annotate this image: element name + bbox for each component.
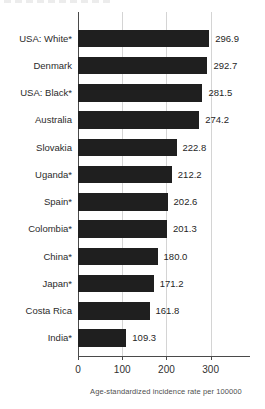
category-label: USA: White*	[0, 30, 72, 48]
category-label: India*	[0, 329, 72, 347]
category-label: China*	[0, 248, 72, 266]
category-label: Slovakia	[0, 139, 72, 157]
category-label: Japan*	[0, 275, 72, 293]
gridline	[211, 12, 212, 356]
x-axis-tick-label: 200	[158, 364, 175, 375]
x-axis-title: Age-standardized incidence rate per 1000…	[78, 387, 254, 396]
category-label: Denmark	[0, 57, 72, 75]
bar	[78, 275, 154, 293]
category-label: Uganda*	[0, 166, 72, 184]
bar	[78, 193, 168, 211]
x-axis-tick-label: 0	[75, 364, 81, 375]
value-label: 161.8	[156, 302, 180, 320]
value-label: 201.3	[173, 220, 197, 238]
category-label: USA: Black*	[0, 84, 72, 102]
category-label: Costa Rica	[0, 302, 72, 320]
bar-chart-screenshot: 0100200300USA: White*296.9Denmark292.7US…	[0, 0, 265, 409]
value-label: 296.9	[215, 30, 239, 48]
cropped-text-remnant	[4, 0, 114, 3]
bar	[78, 220, 167, 238]
value-label: 281.5	[208, 84, 232, 102]
category-label: Australia	[0, 111, 72, 129]
bar	[78, 139, 177, 157]
category-label: Spain*	[0, 193, 72, 211]
x-axis-tick	[166, 357, 167, 360]
value-label: 171.2	[160, 275, 184, 293]
bar	[78, 30, 209, 48]
bar	[78, 57, 207, 75]
x-axis-tick	[78, 357, 79, 360]
value-label: 292.7	[213, 57, 237, 75]
category-label: Colombia*	[0, 220, 72, 238]
value-label: 109.3	[132, 329, 156, 347]
value-label: 202.6	[174, 193, 198, 211]
bar	[78, 302, 150, 320]
bar	[78, 248, 158, 266]
x-axis-tick-label: 300	[202, 364, 219, 375]
x-axis-tick	[122, 357, 123, 360]
x-axis-tick	[211, 357, 212, 360]
value-label: 222.8	[183, 139, 207, 157]
bar	[78, 84, 202, 102]
bar	[78, 166, 172, 184]
x-axis-line	[78, 356, 250, 357]
bar	[78, 329, 126, 347]
value-label: 212.2	[178, 166, 202, 184]
bar	[78, 111, 199, 129]
x-axis-tick-label: 100	[114, 364, 131, 375]
value-label: 180.0	[164, 248, 188, 266]
value-label: 274.2	[205, 111, 229, 129]
